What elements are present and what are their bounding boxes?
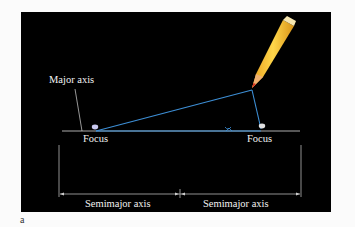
focus-right-label: Focus (247, 133, 272, 144)
ellipse-construction-diagram (0, 0, 355, 227)
focus-pin-left-icon (92, 125, 98, 130)
semimajor-left-label: Semimajor axis (85, 198, 151, 209)
major-axis-pointer (75, 89, 82, 131)
pencil-icon (252, 16, 296, 88)
figure-label: a (20, 214, 24, 225)
focus-left-label: Focus (83, 133, 108, 144)
focus-pin-right-icon (259, 124, 265, 129)
string-left (96, 90, 252, 131)
major-axis-label: Major axis (49, 74, 94, 85)
string-right (252, 90, 261, 129)
semimajor-right-label: Semimajor axis (203, 198, 269, 209)
